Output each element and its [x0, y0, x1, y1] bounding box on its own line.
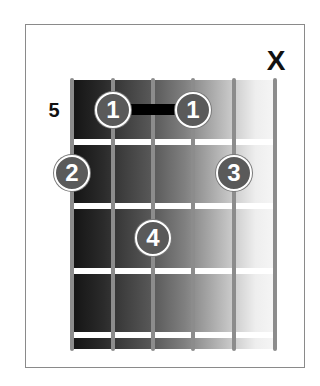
- finger-dot: 3: [216, 155, 252, 191]
- finger-dot: 4: [135, 220, 171, 256]
- string-1: [70, 78, 74, 351]
- finger-dot: 1: [175, 92, 211, 128]
- muted-string-marker: X: [263, 46, 289, 76]
- finger-dot: 1: [95, 92, 131, 128]
- fret-line-1: [72, 139, 276, 145]
- start-fret-label: 5: [44, 98, 64, 122]
- barre-bar: [126, 104, 180, 115]
- string-6: [273, 78, 277, 351]
- fret-line-2: [72, 203, 276, 209]
- finger-dot: 2: [54, 155, 90, 191]
- fret-line-4: [72, 332, 276, 338]
- string-3: [151, 78, 155, 351]
- string-5: [232, 78, 236, 351]
- fret-line-3: [72, 268, 276, 274]
